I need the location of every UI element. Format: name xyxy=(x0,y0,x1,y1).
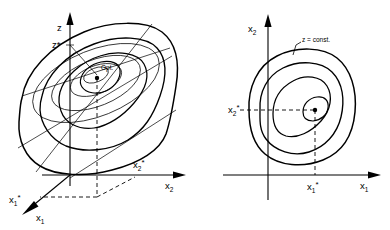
projected-contour-rings xyxy=(22,27,171,138)
x1-axis-line xyxy=(30,175,70,208)
projected-ring-outer xyxy=(22,27,171,138)
contour-map-level-2 xyxy=(260,63,343,154)
two-dimensional-contour-map-panel: x2 x1 x2* x1* z = const. xyxy=(195,0,390,230)
three-dimensional-response-surface-panel: z z* Opt. x2 x2* x1 x1* xyxy=(0,0,195,230)
x2-axis-arrowhead xyxy=(173,171,186,178)
x2-axis-arrowhead xyxy=(264,14,271,27)
contour-annotation-leader xyxy=(293,42,301,55)
contour-map-level-3 xyxy=(273,77,330,137)
surface-contours xyxy=(19,23,178,174)
x2-optimum-label: x2* xyxy=(228,103,240,117)
z-axis-label: z xyxy=(57,22,62,33)
optimum-point-marker xyxy=(313,108,317,112)
z-axis-arrowhead xyxy=(66,12,73,25)
z-const-leader-line xyxy=(293,42,301,55)
z-optimum-label: z* xyxy=(52,39,61,50)
x1-optimum-label: x1* xyxy=(9,193,21,207)
x2-axis xyxy=(42,171,186,178)
optimum-label: Opt. xyxy=(101,64,113,72)
contour-level-1 xyxy=(19,23,178,174)
x1-axis-label: x1 xyxy=(36,212,45,225)
x1-optimum-label: x1* xyxy=(307,180,319,194)
x1-axis-label: x1 xyxy=(360,180,369,193)
x1-axis xyxy=(22,175,70,215)
x2-axis-label: x2 xyxy=(248,23,257,36)
x1-axis-arrowhead xyxy=(368,171,381,178)
optimum-point-marker xyxy=(95,76,99,80)
dashed-to-x2-star xyxy=(97,177,135,197)
x2-axis-label: x2 xyxy=(165,180,174,193)
figure-root: z z* Opt. x2 x2* x1 x1* xyxy=(0,0,390,230)
contour-map-level-1 xyxy=(249,49,355,165)
contour-map-curves xyxy=(249,49,355,165)
contour-annotation-label: z = const. xyxy=(302,36,330,43)
